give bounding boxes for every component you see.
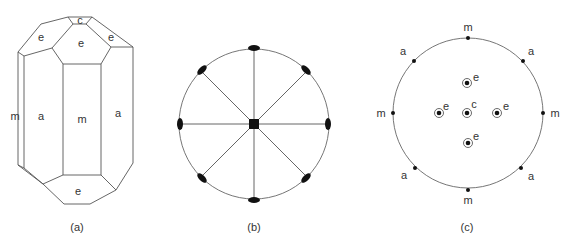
pole-label-m-top: m xyxy=(463,21,472,33)
twofold-axis-icon xyxy=(325,118,331,130)
face-label-c: c xyxy=(77,14,83,26)
face-label-m-left: m xyxy=(10,110,19,122)
caption-c: (c) xyxy=(461,221,474,233)
pole-label-a-bottom-left: a xyxy=(401,169,408,181)
pole-label-m-bottom: m xyxy=(463,194,472,206)
twofold-axis-icon xyxy=(248,45,260,51)
pole-label-a-top-left: a xyxy=(400,45,407,57)
caption-b: (b) xyxy=(247,221,260,233)
fourfold-axis-square-icon xyxy=(249,119,259,129)
panel-c-pole-stereogram: m m m m a a a a c e e e e (c) xyxy=(376,21,559,233)
pole-label-a-bottom-right: a xyxy=(528,170,535,182)
face-label-e-top-left: e xyxy=(38,31,44,43)
face-label-m-center: m xyxy=(77,113,86,125)
pole-label-e-left: e xyxy=(443,100,449,112)
twofold-axis-icon xyxy=(248,197,260,203)
pole-label-m-left: m xyxy=(376,107,385,119)
pole-c xyxy=(463,109,472,118)
pole-label-e-top: e xyxy=(473,71,479,83)
pole-e-top xyxy=(463,79,472,88)
pole-label-e-right: e xyxy=(503,100,509,112)
panel-a-crystal: c e e e m a m a e (a) xyxy=(10,14,133,233)
face-label-a-right: a xyxy=(115,107,122,119)
crystal-figure: c e e e m a m a e (a) (b) xyxy=(0,0,571,246)
panel-b-symmetry-stereogram: (b) xyxy=(177,45,331,233)
pole-e-right xyxy=(493,109,502,118)
pole-label-e-bottom: e xyxy=(473,130,479,142)
caption-a: (a) xyxy=(70,221,83,233)
pole-label-a-top-right: a xyxy=(528,45,535,57)
twofold-axis-icon xyxy=(177,118,183,130)
pole-e-bottom xyxy=(464,139,473,148)
face-label-e-top-right: e xyxy=(108,31,114,43)
pole-label-c: c xyxy=(471,98,477,110)
face-label-e-bottom: e xyxy=(75,185,81,197)
pole-label-m-right: m xyxy=(550,107,559,119)
face-label-e-top-center: e xyxy=(78,37,84,49)
face-label-a-left: a xyxy=(38,110,45,122)
